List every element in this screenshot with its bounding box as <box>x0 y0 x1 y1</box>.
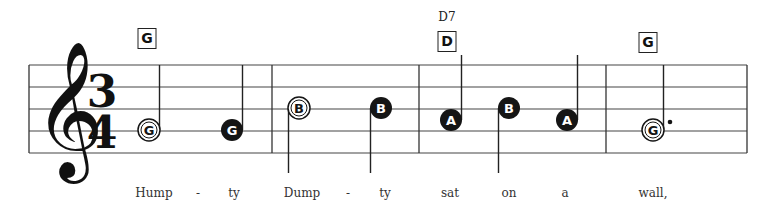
lyric-syllable: ty <box>379 186 391 200</box>
chord-box-g: G <box>138 28 157 49</box>
note-g-dotted-half: G <box>642 65 672 141</box>
note-letter: B <box>504 101 514 116</box>
note-letter: G <box>144 123 155 138</box>
note-g-half: G <box>138 65 160 141</box>
note-b-half: B <box>288 97 310 173</box>
time-signature: 3 4 <box>87 66 118 158</box>
lyric-syllable: Hump <box>135 186 172 200</box>
note-g-quarter: G <box>221 65 243 141</box>
lyric-syllable: Dump <box>284 186 320 200</box>
notes: GGBBABAG <box>138 55 672 173</box>
note-b-quarter: B <box>370 97 392 173</box>
lyric-hyphen: - <box>346 186 350 200</box>
lyric-syllable: sat <box>441 186 459 200</box>
chord-box-g: G <box>639 32 658 53</box>
note-letter: B <box>294 101 304 116</box>
music-staff: 𝄞 3 4 GGBBABAG <box>0 0 776 216</box>
lyric-syllable: wall, <box>639 186 668 200</box>
note-letter: G <box>227 123 238 138</box>
note-letter: A <box>446 113 456 128</box>
time-signature-bottom: 4 <box>87 107 118 158</box>
lyric-hyphen: - <box>196 186 200 200</box>
note-a-quarter: A <box>556 55 578 131</box>
lyric-syllable: on <box>502 186 517 200</box>
chord-name-label: D7 <box>438 10 455 24</box>
note-a-quarter: A <box>440 55 462 131</box>
lyric-syllable: ty <box>228 186 240 200</box>
note-letter: B <box>376 101 386 116</box>
lyric-syllable: a <box>561 186 568 200</box>
note-letter: G <box>648 123 659 138</box>
augmentation-dot <box>668 120 673 125</box>
note-letter: A <box>562 113 572 128</box>
note-b-quarter: B <box>498 97 520 173</box>
chord-box-d: D <box>438 31 457 52</box>
